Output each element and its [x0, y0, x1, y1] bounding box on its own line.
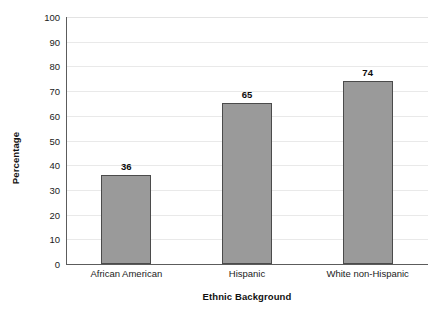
gridline [66, 42, 428, 43]
y-tick-label: 100 [34, 12, 60, 23]
y-axis-title: Percentage [0, 0, 30, 316]
y-axis-line [66, 17, 67, 265]
x-axis-line [66, 264, 428, 265]
y-tick-label: 70 [34, 86, 60, 97]
y-tick-label: 80 [34, 61, 60, 72]
x-axis-title: Ethnic Background [66, 291, 428, 302]
y-tick-label: 30 [34, 184, 60, 195]
x-tick-label: White non-Hispanic [288, 268, 446, 279]
bar [343, 81, 393, 264]
bar-chart: Percentage 0102030405060708090100 366574… [0, 0, 446, 316]
bar-value-label: 36 [96, 161, 156, 172]
plot-area: 366574 [66, 17, 428, 264]
y-tick-label: 90 [34, 36, 60, 47]
bar-value-label: 74 [338, 67, 398, 78]
y-tick-label: 60 [34, 110, 60, 121]
bar-value-label: 65 [217, 89, 277, 100]
y-tick-label: 10 [34, 234, 60, 245]
bar [101, 175, 151, 264]
y-tick-label: 50 [34, 135, 60, 146]
y-tick-label: 40 [34, 160, 60, 171]
y-tick-label: 20 [34, 209, 60, 220]
gridline [66, 17, 428, 18]
bar [222, 103, 272, 264]
